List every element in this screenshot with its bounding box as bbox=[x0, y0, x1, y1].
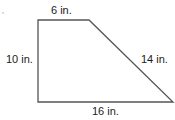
top-side-label: 6 in. bbox=[51, 5, 72, 16]
left-side-label: 10 in. bbox=[6, 54, 33, 65]
bottom-side-label: 16 in. bbox=[92, 106, 119, 117]
slant-side-label: 14 in. bbox=[141, 54, 168, 65]
